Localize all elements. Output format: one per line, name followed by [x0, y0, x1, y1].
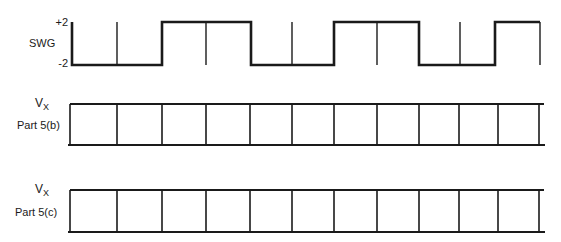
square-wave-path — [72, 22, 540, 65]
swg-tick-lines — [117, 22, 540, 65]
vx-grid-part-5b — [68, 104, 545, 145]
vx-grid-part-5c — [68, 190, 545, 232]
timing-diagram — [0, 0, 561, 242]
swg-waveform — [72, 22, 540, 65]
